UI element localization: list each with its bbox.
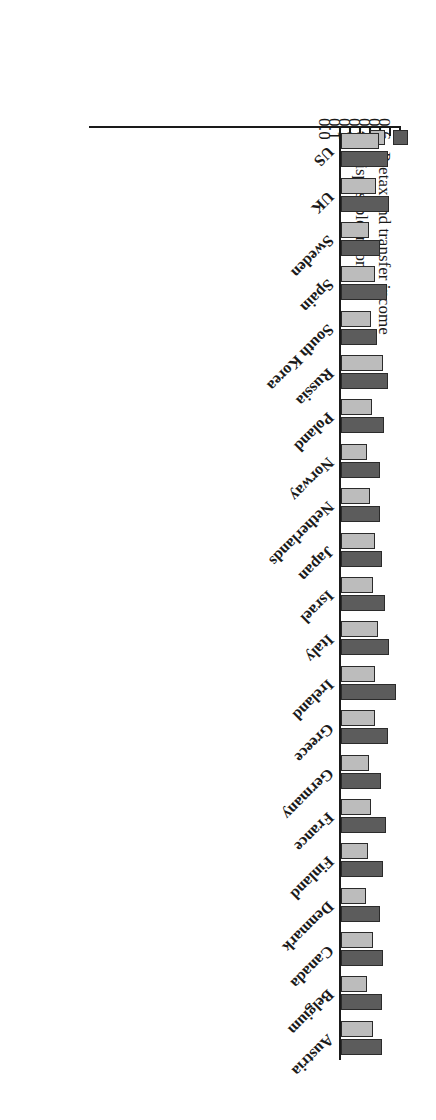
bar-russia-pretax bbox=[341, 373, 388, 389]
bar-russia-disposable bbox=[341, 355, 383, 371]
bar-japan-disposable bbox=[341, 533, 375, 549]
bar-denmark-disposable bbox=[341, 888, 366, 904]
bar-italy-pretax bbox=[341, 639, 389, 655]
bar-canada-pretax bbox=[341, 950, 383, 966]
bar-austria-pretax bbox=[341, 1039, 382, 1055]
bar-finland-disposable bbox=[341, 843, 368, 859]
bar-israel-disposable bbox=[341, 577, 373, 593]
bar-spain-disposable bbox=[341, 266, 375, 282]
bar-uk-pretax bbox=[341, 196, 389, 212]
bar-south-korea-disposable bbox=[341, 311, 371, 327]
bar-netherlands-pretax bbox=[341, 506, 380, 522]
bar-ireland-pretax bbox=[341, 684, 397, 700]
bar-belgium-disposable bbox=[341, 976, 367, 992]
bar-greece-pretax bbox=[341, 728, 388, 744]
bar-france-pretax bbox=[341, 817, 386, 833]
bar-japan-pretax bbox=[341, 551, 382, 567]
bar-norway-pretax bbox=[341, 462, 380, 478]
bar-canada-disposable bbox=[341, 932, 374, 948]
bar-us-disposable bbox=[341, 133, 379, 149]
bar-sweden-pretax bbox=[341, 240, 380, 256]
bar-germany-pretax bbox=[341, 773, 381, 789]
bar-poland-pretax bbox=[341, 417, 384, 433]
bar-sweden-disposable bbox=[341, 222, 369, 238]
bar-finland-pretax bbox=[341, 861, 383, 877]
bar-uk-disposable bbox=[341, 178, 376, 194]
bar-poland-disposable bbox=[341, 399, 372, 415]
bar-italy-disposable bbox=[341, 621, 378, 637]
bar-belgium-pretax bbox=[341, 994, 382, 1010]
chart-canvas: 0.00.10.20.30.40.50.6 AustriaBelgiumCana… bbox=[0, 0, 436, 1120]
bar-denmark-pretax bbox=[341, 906, 380, 922]
bar-netherlands-disposable bbox=[341, 488, 371, 504]
bar-austria-disposable bbox=[341, 1021, 373, 1037]
bar-norway-disposable bbox=[341, 444, 367, 460]
legend-swatch-pretax bbox=[393, 130, 408, 145]
bar-us-pretax bbox=[341, 151, 388, 167]
bar-ireland-disposable bbox=[341, 666, 375, 682]
bar-germany-disposable bbox=[341, 755, 370, 771]
bar-israel-pretax bbox=[341, 595, 385, 611]
chart-figure: 0.00.10.20.30.40.50.6 AustriaBelgiumCana… bbox=[0, 0, 436, 1120]
bar-france-disposable bbox=[341, 799, 371, 815]
bar-greece-disposable bbox=[341, 710, 375, 726]
bar-spain-pretax bbox=[341, 284, 387, 300]
legend-label-disposable: Disposable income bbox=[351, 152, 371, 282]
bar-south-korea-pretax bbox=[341, 329, 377, 345]
